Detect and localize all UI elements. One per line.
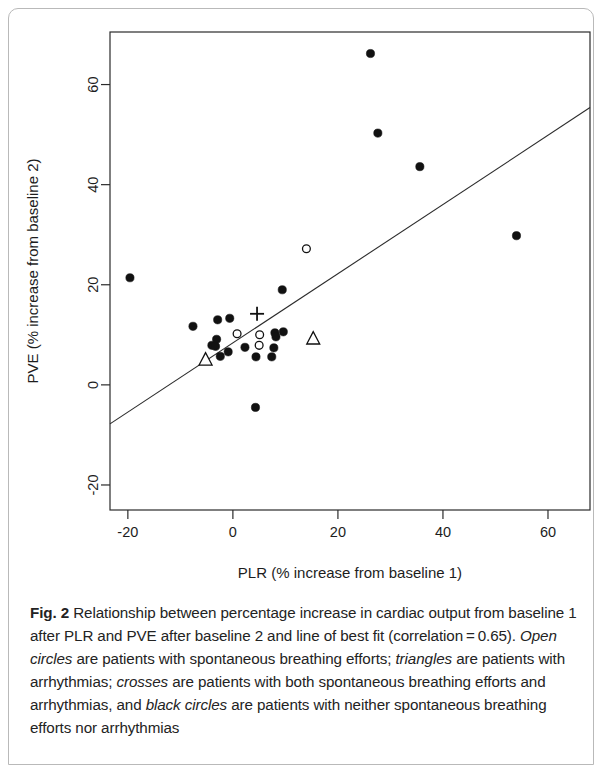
data-point-triangle xyxy=(199,353,212,365)
data-point-open-circle xyxy=(233,330,241,338)
plot-frame xyxy=(110,32,590,510)
series-crosses xyxy=(250,307,264,321)
x-axis-ticks: -200204060 xyxy=(117,510,556,540)
x-tick-label: 60 xyxy=(540,524,556,540)
x-tick-label: 40 xyxy=(435,524,451,540)
data-point-filled-circle xyxy=(211,342,219,350)
x-tick-label: 0 xyxy=(229,524,237,540)
y-tick-label: -20 xyxy=(85,474,101,495)
caption-text: Relationship between percentage increase… xyxy=(30,604,577,644)
data-point-filled-circle xyxy=(241,343,249,351)
data-point-open-circle xyxy=(303,245,311,253)
scatter-plot: -200204060 -200204060 PLR (% increase fr… xyxy=(0,0,602,595)
best-fit-line xyxy=(110,108,590,424)
data-point-filled-circle xyxy=(270,344,278,352)
data-point-filled-circle xyxy=(416,163,424,171)
data-point-filled-circle xyxy=(252,353,260,361)
caption-emphasis: crosses xyxy=(116,673,168,690)
data-point-filled-circle xyxy=(278,286,286,294)
caption-emphasis: triangles xyxy=(396,650,453,667)
data-point-filled-circle xyxy=(279,328,287,336)
data-point-filled-circle xyxy=(126,274,134,282)
y-tick-label: 0 xyxy=(85,381,101,389)
data-point-filled-circle xyxy=(224,348,232,356)
figure-caption: Fig. 2 Relationship between percentage i… xyxy=(30,601,578,740)
plot-svg: -200204060 -200204060 PLR (% increase fr… xyxy=(0,0,602,595)
data-point-filled-circle xyxy=(189,322,197,330)
data-point-triangle xyxy=(307,332,320,344)
data-point-filled-circle xyxy=(374,129,382,137)
data-point-filled-circle xyxy=(251,403,259,411)
figure-label: Fig. 2 xyxy=(30,604,69,621)
y-axis-ticks: -200204060 xyxy=(85,76,110,495)
data-point-filled-circle xyxy=(226,314,234,322)
data-point-filled-circle xyxy=(214,316,222,324)
x-tick-label: 20 xyxy=(330,524,346,540)
data-point-filled-circle xyxy=(268,353,276,361)
data-point-filled-circle xyxy=(512,232,520,240)
data-point-open-circle xyxy=(256,331,264,339)
y-tick-label: 60 xyxy=(85,76,101,92)
figure-container: -200204060 -200204060 PLR (% increase fr… xyxy=(0,0,602,773)
series-black-circles xyxy=(126,49,521,411)
x-axis-title: PLR (% increase from baseline 1) xyxy=(238,564,462,581)
data-point-filled-circle xyxy=(216,352,224,360)
data-point-filled-circle xyxy=(366,49,374,57)
fit-line xyxy=(110,108,590,424)
caption-emphasis: black circles xyxy=(146,696,227,713)
y-axis-title: PVE (% increase from baseline 2) xyxy=(24,158,41,383)
y-tick-label: 20 xyxy=(85,277,101,293)
x-tick-label: -20 xyxy=(117,524,138,540)
caption-text: are patients with spontaneous breathing … xyxy=(72,650,395,667)
y-tick-label: 40 xyxy=(85,177,101,193)
data-point-filled-circle xyxy=(272,333,280,341)
data-point-open-circle xyxy=(255,341,263,349)
